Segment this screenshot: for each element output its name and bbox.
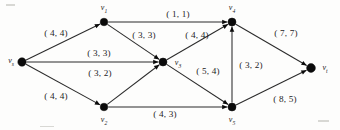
node-label-vt: vt	[322, 64, 327, 74]
edge-v2-to-v3	[107, 65, 159, 105]
node-label-subscript: 3	[178, 63, 181, 69]
node-vs	[18, 58, 26, 66]
node-v5	[228, 103, 236, 111]
arrowhead-v5-to-v4	[230, 27, 235, 32]
node-label-v3: v3	[175, 59, 181, 69]
scan-speck	[6, 4, 15, 6]
node-label-subscript: s	[12, 61, 14, 67]
node-label-v4: v4	[229, 4, 235, 14]
node-label-subscript: 5	[232, 120, 235, 126]
edge-label-vs-v2: ( 4, 4)	[44, 92, 68, 101]
node-v1	[100, 18, 108, 26]
node-label-v5: v5	[229, 116, 235, 126]
arrowhead-v1-to-v4	[222, 20, 227, 25]
node-vt	[307, 64, 316, 73]
scan-speck	[40, 126, 54, 127]
edge-label-vs-v3: ( 3, 3)	[87, 49, 111, 58]
node-label-subscript: t	[326, 68, 328, 74]
node-label-subscript: 4	[232, 8, 235, 14]
edge-label-v2-v5: ( 4, 3)	[153, 110, 177, 119]
scan-speck	[318, 120, 329, 122]
network-flow-diagram: ( 4, 4)( 3, 3)( 4, 4)( 1, 1)( 3, 3)( 3, …	[0, 0, 340, 130]
node-label-vs: vs	[8, 57, 14, 67]
arrowhead-vs-to-v3	[153, 60, 158, 65]
edge-label-v1-v3: ( 3, 3)	[132, 31, 156, 40]
edge-label-v1-v4: ( 1, 1)	[166, 10, 190, 19]
edge-label-v3-v5: ( 5, 4)	[196, 67, 220, 76]
edge-label-vs-v1: ( 4, 4)	[44, 29, 68, 38]
node-label-subscript: 2	[104, 120, 107, 126]
node-v4	[228, 18, 236, 26]
edge-label-v2-v3: ( 3, 2)	[88, 69, 112, 78]
edge-label-v4-vt: ( 7, 7)	[274, 29, 298, 38]
arrowhead-v3-to-v5	[223, 100, 229, 105]
arrowhead-v1-to-v3	[154, 55, 160, 60]
node-v3	[159, 58, 167, 66]
node-label-v2: v2	[101, 116, 107, 126]
edge-label-v5-vt: ( 8, 5)	[273, 95, 297, 104]
arrowhead-v2-to-v5	[222, 105, 227, 110]
edge-label-v5-v4: ( 3, 2)	[239, 61, 263, 70]
edge-label-v3-v4: ( 4, 4)	[185, 31, 209, 40]
node-label-subscript: 1	[104, 8, 107, 14]
node-v2	[100, 103, 108, 111]
node-label-v1: v1	[101, 4, 107, 14]
